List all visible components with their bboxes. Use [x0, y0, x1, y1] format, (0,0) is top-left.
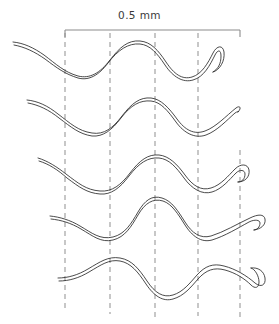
- filament-row-5-outer-edge: [58, 258, 265, 296]
- filament-row-2-inner-edge: [28, 101, 239, 136]
- figure-canvas: [0, 0, 279, 324]
- filament-row-4-outer-edge: [50, 197, 265, 238]
- filament-row-2: [27, 98, 240, 136]
- filament-row-3-outer-edge: [38, 155, 249, 191]
- reference-lines-group: [65, 33, 240, 320]
- filament-row-1-outer-edge: [13, 41, 224, 78]
- filament-row-4: [50, 197, 265, 241]
- filaments-group: [13, 41, 265, 300]
- scale-bar-label: 0.5 mm: [0, 9, 279, 21]
- filament-row-5-inner-edge: [59, 261, 259, 300]
- scale-bar: [65, 30, 240, 37]
- scientific-figure-undulating-filaments: 0.5 mm: [0, 0, 279, 324]
- filament-row-1-inner-edge: [14, 44, 221, 81]
- filament-row-5: [58, 258, 265, 300]
- filament-row-2-outer-edge: [27, 98, 240, 133]
- filament-row-3: [38, 155, 249, 194]
- filament-row-1: [13, 41, 224, 81]
- filament-row-3-inner-edge: [39, 158, 245, 194]
